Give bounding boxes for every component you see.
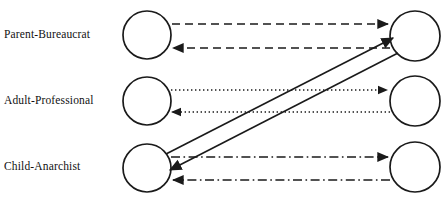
edge-parent-to-child-diagonal bbox=[170, 53, 398, 170]
row-group-parent-bureaucrat bbox=[123, 11, 440, 61]
crossed-edges-group bbox=[166, 38, 398, 170]
row-label-child-anarchist: Child-Anarchist bbox=[4, 161, 122, 173]
edge-child-to-parent-diagonal bbox=[166, 38, 393, 154]
node-parent-bureaucrat-left[interactable] bbox=[123, 11, 171, 59]
row-group-adult-professional bbox=[123, 76, 440, 126]
node-adult-professional-left[interactable] bbox=[123, 77, 171, 125]
node-child-anarchist-left[interactable] bbox=[123, 144, 171, 192]
row-label-adult-professional: Adult-Professional bbox=[4, 95, 122, 107]
row-label-parent-bureaucrat: Parent-Bureaucrat bbox=[4, 29, 122, 41]
row-group-child-anarchist bbox=[123, 142, 440, 192]
diagram-canvas: Parent-Bureaucrat Adult-Professional Chi… bbox=[0, 0, 443, 199]
node-child-anarchist-right[interactable] bbox=[390, 142, 440, 192]
node-adult-professional-right[interactable] bbox=[390, 76, 440, 126]
